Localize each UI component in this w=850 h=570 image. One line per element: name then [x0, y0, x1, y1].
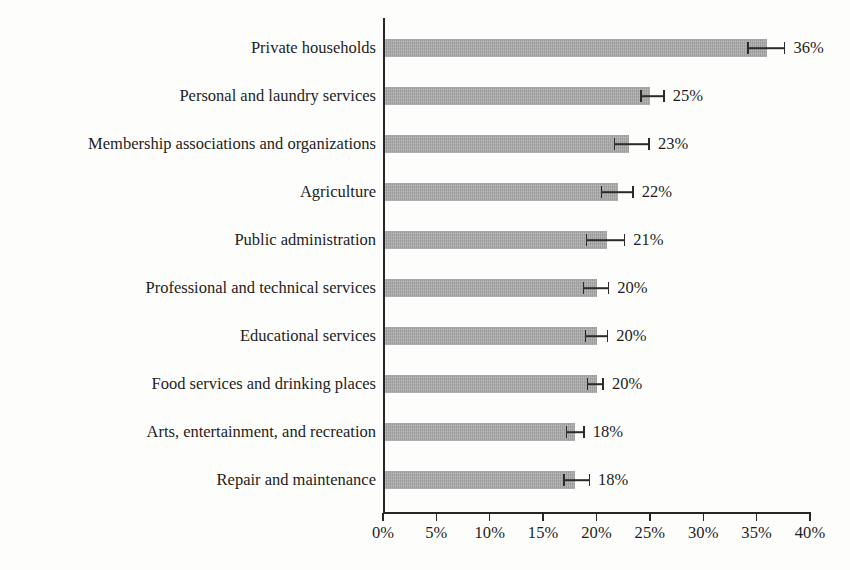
category-label: Arts, entertainment, and recreation: [146, 423, 376, 440]
error-bar-whisker: [585, 335, 608, 337]
bar: [385, 423, 575, 441]
error-bar: [587, 378, 604, 390]
bar: [385, 39, 767, 57]
x-tick-mark: [596, 513, 597, 521]
x-tick-mark: [703, 513, 704, 521]
x-tick-mark: [649, 513, 650, 521]
category-label: Professional and technical services: [146, 279, 376, 296]
bar-row: Agriculture22%: [0, 168, 850, 216]
error-bar-whisker: [586, 239, 625, 241]
x-tick-mark: [756, 513, 757, 521]
error-bar-cap-high: [583, 426, 585, 438]
category-label: Food services and drinking places: [151, 375, 376, 392]
bar-row: Membership associations and organization…: [0, 120, 850, 168]
error-bar: [601, 186, 634, 198]
bar-row: Private households36%: [0, 24, 850, 72]
error-bar-cap-high: [624, 234, 626, 246]
value-label: 20%: [616, 326, 646, 346]
error-bar: [563, 474, 590, 486]
category-label: Agriculture: [300, 183, 376, 200]
x-tick-mark: [542, 513, 543, 521]
category-label: Educational services: [240, 327, 376, 344]
x-tick-label: 30%: [688, 523, 719, 543]
bar-row: Professional and technical services20%: [0, 264, 850, 312]
x-tick-label: 20%: [581, 523, 612, 543]
value-label: 20%: [612, 374, 642, 394]
bar-row: Public administration21%: [0, 216, 850, 264]
error-bar-cap-low: [566, 426, 568, 438]
x-tick-mark: [382, 513, 383, 521]
error-bar-cap-low: [640, 90, 642, 102]
bar-row: Food services and drinking places20%: [0, 360, 850, 408]
value-label: 21%: [633, 230, 663, 250]
error-bar-cap-high: [608, 282, 610, 294]
error-bar-cap-low: [586, 234, 588, 246]
value-label: 22%: [642, 182, 672, 202]
x-tick-label: 5%: [425, 523, 447, 543]
value-label: 36%: [793, 38, 823, 58]
error-bar: [747, 42, 785, 54]
x-tick-mark: [436, 513, 437, 521]
x-tick-label: 40%: [795, 523, 826, 543]
bar-row: Repair and maintenance18%: [0, 456, 850, 504]
x-tick-label: 0%: [372, 523, 394, 543]
error-bar-cap-low: [587, 378, 589, 390]
value-label: 18%: [598, 470, 628, 490]
error-bar-cap-high: [648, 138, 650, 150]
error-bar-cap-low: [601, 186, 603, 198]
error-bar-cap-high: [607, 330, 609, 342]
error-bar-cap-high: [663, 90, 665, 102]
bar: [385, 327, 597, 345]
value-label: 23%: [658, 134, 688, 154]
error-bar-cap-low: [563, 474, 565, 486]
error-bar-whisker: [601, 191, 634, 193]
category-label: Personal and laundry services: [179, 87, 376, 104]
error-bar-whisker: [566, 431, 585, 433]
x-tick-mark: [489, 513, 490, 521]
error-bar: [614, 138, 650, 150]
value-label: 20%: [617, 278, 647, 298]
x-tick-label: 10%: [474, 523, 505, 543]
error-bar: [585, 330, 608, 342]
error-bar: [640, 90, 665, 102]
error-bar-whisker: [583, 287, 610, 289]
bar: [385, 231, 607, 249]
error-bar: [583, 282, 610, 294]
bar: [385, 375, 597, 393]
error-bar-cap-high: [602, 378, 604, 390]
bar-row: Educational services20%: [0, 312, 850, 360]
error-bar-whisker: [563, 479, 590, 481]
error-bar-cap-high: [632, 186, 634, 198]
error-bar-cap-low: [583, 282, 585, 294]
category-label: Private households: [251, 39, 376, 56]
value-label: 25%: [673, 86, 703, 106]
bar: [385, 87, 650, 105]
x-tick-label: 15%: [528, 523, 559, 543]
error-bar-cap-high: [784, 42, 786, 54]
error-bar: [586, 234, 625, 246]
x-tick-label: 25%: [635, 523, 666, 543]
category-label: Repair and maintenance: [217, 471, 376, 488]
error-bar-whisker: [640, 95, 665, 97]
error-bar-whisker: [614, 143, 650, 145]
bar-row: Arts, entertainment, and recreation18%: [0, 408, 850, 456]
category-label: Membership associations and organization…: [88, 135, 376, 152]
error-bar-cap-low: [747, 42, 749, 54]
x-tick-mark: [809, 513, 810, 521]
bar: [385, 183, 618, 201]
bar: [385, 279, 597, 297]
bar-chart: 0%5%10%15%20%25%30%35%40% Private househ…: [0, 0, 850, 570]
bar: [385, 471, 575, 489]
value-label: 18%: [593, 422, 623, 442]
error-bar-cap-low: [585, 330, 587, 342]
bar: [385, 135, 629, 153]
error-bar-cap-high: [589, 474, 591, 486]
bar-row: Personal and laundry services25%: [0, 72, 850, 120]
error-bar-cap-low: [614, 138, 616, 150]
error-bar-whisker: [747, 47, 785, 49]
plot-area: 0%5%10%15%20%25%30%35%40% Private househ…: [0, 0, 850, 570]
error-bar: [566, 426, 585, 438]
category-label: Public administration: [234, 231, 376, 248]
x-tick-label: 35%: [741, 523, 772, 543]
